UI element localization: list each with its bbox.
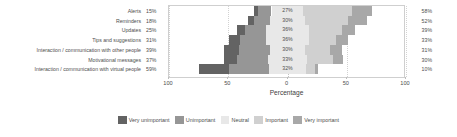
category-axis-labels: AlertsRemindersUpdatesTips and suggestio… [0,7,141,75]
positive-total-label: 58% [422,7,432,17]
x-axis-title: Percentage [168,88,405,97]
chart-legend: Very unimportantUnimportantNeutralImport… [0,112,457,128]
bar-segment-unimportant [240,35,266,45]
bar-segment-very-important [336,35,348,45]
bar-segment-unimportant [258,6,271,16]
bar-segment-very-unimportant [237,25,245,35]
bar-segment-important [309,35,336,45]
neutral-value-label: 36% [266,25,309,35]
bar-segment-important [309,25,342,35]
bar-row: 36% [169,35,404,45]
negative-total-label: 39% [146,46,156,56]
negative-total-label: 59% [146,65,156,75]
bar-row: 30% [169,16,404,26]
legend-label: Very important [304,116,339,124]
likert-diverging-bar-chart: AlertsRemindersUpdatesTips and suggestio… [0,0,457,137]
bar-segment-very-unimportant [229,35,240,45]
legend-swatch [175,116,184,125]
bar-row: 36% [169,25,404,35]
category-label: Tips and suggestions [92,36,141,46]
x-axis-tick-label: 100 [163,80,172,87]
bar-segment-important [307,55,333,65]
negative-total-label: 25% [146,26,156,36]
neutral-value-label: 27% [272,6,304,16]
legend-swatch [254,116,263,125]
bar-segment-unimportant [237,55,268,65]
positive-total-label: 52% [422,17,432,27]
x-axis-tick-label: 50 [224,80,230,87]
bar-segment-important [305,45,330,55]
neutral-value-label: 32% [269,64,307,74]
neutral-value-label: 30% [270,16,306,26]
legend-label: Unimportant [186,116,215,124]
legend-label: Neutral [231,116,248,124]
bar-segment-very-important [315,64,319,74]
bar-segment-important [306,64,314,74]
negative-total-label: 37% [146,56,156,66]
neutral-value-label: 36% [266,35,309,45]
positive-total-label: 30% [422,56,432,66]
bar-segment-unimportant [239,45,270,55]
x-axis-tick-label: 50 [343,80,349,87]
bar-row: 27% [169,6,404,16]
bar-segment-important [305,16,348,26]
bar-segment-unimportant [254,16,269,26]
bar-segment-unimportant [245,25,266,35]
positive-total-label: 10% [422,65,432,75]
category-label: Motivational messages [88,56,141,66]
legend-swatch [118,116,127,125]
positive-total-label: 31% [422,46,432,56]
gridline [406,6,407,77]
positive-total-label: 39% [422,26,432,36]
bar-row: 32% [169,64,404,74]
positive-total-labels: 58%52%39%33%31%30%10% [408,7,432,75]
category-label: Interaction / communication with other p… [37,46,141,56]
legend-label: Very unimportant [129,116,170,124]
category-label: Alerts [128,7,141,17]
bar-segment-very-unimportant [224,55,237,65]
bar-row: 33% [169,55,404,65]
legend-item[interactable]: Unimportant [175,116,215,125]
category-label: Reminders [116,17,141,27]
legend-item[interactable]: Important [254,116,288,125]
bar-segment-very-unimportant [224,45,239,55]
bar-segment-very-important [330,45,342,55]
category-label: Interaction / communication with virtual… [35,65,141,75]
negative-total-label: 31% [146,36,156,46]
x-axis-tick-label: 0 [285,80,288,87]
negative-total-labels: 15%18%25%31%39%37%59% [146,7,168,75]
bar-segment-unimportant [229,64,268,74]
category-label: Updates [122,26,141,36]
plot-area: 27%30%36%36%30%33%32% [168,5,405,77]
neutral-value-label: 33% [268,55,307,65]
bar-segment-very-important [352,6,372,16]
x-axis-tick-label: 100 [400,80,409,87]
legend-swatch [221,116,230,125]
bar-segment-very-important [348,16,367,26]
bar-segment-very-important [333,55,342,65]
legend-item[interactable]: Neutral [221,116,249,125]
neutral-value-label: 30% [270,45,306,55]
negative-total-label: 18% [146,17,156,27]
bar-segment-important [303,6,352,16]
positive-total-label: 33% [422,36,432,46]
legend-label: Important [265,116,288,124]
legend-item[interactable]: Very important [293,116,339,125]
bar-segment-very-unimportant [199,64,230,74]
legend-swatch [293,116,302,125]
legend-item[interactable]: Very unimportant [118,116,170,125]
bar-row: 30% [169,45,404,55]
bar-segment-very-important [342,25,355,35]
negative-total-label: 15% [146,7,156,17]
